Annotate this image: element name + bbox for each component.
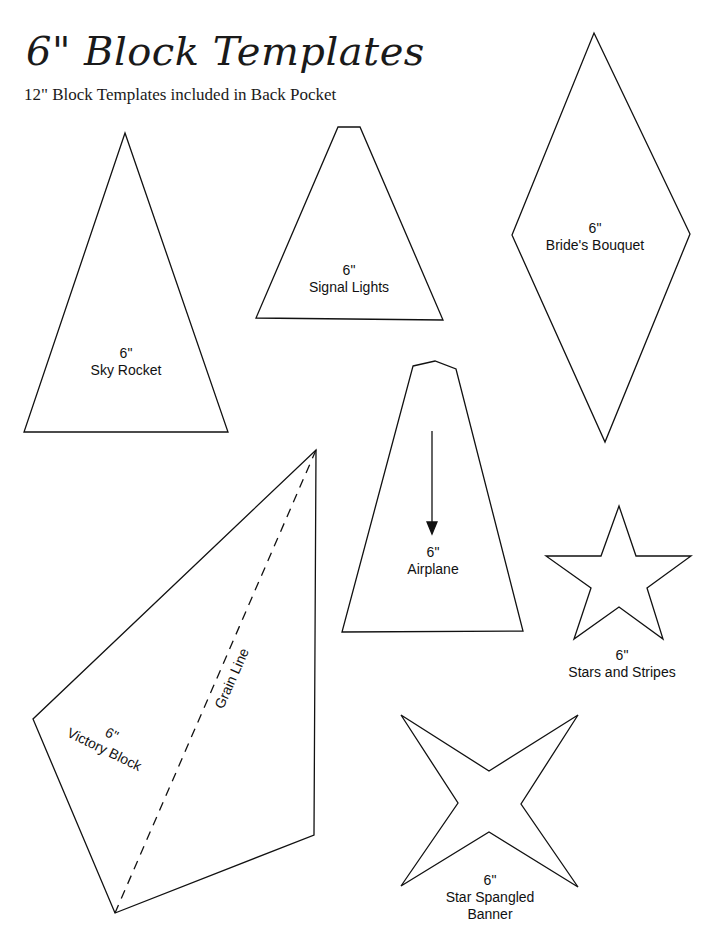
star-spangled-banner-name: Star Spangled: [446, 889, 535, 906]
sky-rocket-size: 6": [91, 345, 162, 362]
stars-and-stripes-size: 6": [568, 647, 675, 664]
sky-rocket-name: Sky Rocket: [91, 362, 162, 379]
star-spangled-banner-label: 6" Star Spangled Banner: [446, 872, 535, 923]
brides-bouquet-name: Bride's Bouquet: [546, 237, 644, 254]
templates-canvas: [0, 0, 712, 926]
stars-and-stripes-label: 6" Stars and Stripes: [568, 647, 675, 681]
brides-bouquet-size: 6": [546, 220, 644, 237]
star-spangled-banner-name-line2: Banner: [446, 906, 535, 923]
brides-bouquet-label: 6" Bride's Bouquet: [546, 220, 644, 254]
grain-line: [115, 450, 316, 913]
stars-and-stripes-name: Stars and Stripes: [568, 664, 675, 681]
airplane-size: 6": [407, 544, 458, 561]
signal-lights-name: Signal Lights: [309, 279, 389, 296]
sky-rocket-shape: [24, 133, 228, 432]
star-spangled-banner-shape: [401, 715, 578, 887]
victory-block-shape: [33, 450, 316, 913]
airplane-name: Airplane: [407, 561, 458, 578]
arrowhead-icon: [427, 522, 437, 534]
airplane-label: 6" Airplane: [407, 544, 458, 578]
stars-and-stripes-shape: [546, 506, 691, 639]
signal-lights-size: 6": [309, 262, 389, 279]
signal-lights-label: 6" Signal Lights: [309, 262, 389, 296]
sky-rocket-label: 6" Sky Rocket: [91, 345, 162, 379]
star-spangled-banner-size: 6": [446, 872, 535, 889]
